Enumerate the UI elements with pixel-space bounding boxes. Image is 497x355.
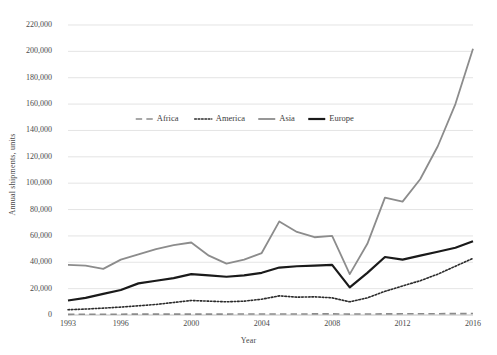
y-tick-label: 0 (0, 310, 52, 319)
x-tick-label: 2004 (242, 319, 282, 328)
gridlines (68, 25, 473, 315)
legend-label-africa: Africa (157, 113, 179, 123)
series-line-america (68, 258, 473, 309)
y-axis-title: Annual shipments, units (8, 115, 17, 235)
x-tick-label: 2000 (171, 319, 211, 328)
x-tick-label: 2016 (453, 319, 493, 328)
series-line-africa (68, 314, 473, 315)
x-tick-label: 2008 (312, 319, 352, 328)
y-tick-label: 220,000 (0, 20, 52, 29)
legend-label-asia: Asia (279, 113, 295, 123)
x-axis-title: Year (0, 336, 497, 345)
legend-label-europe: Europe (329, 113, 354, 123)
y-tick-label: 160,000 (0, 99, 52, 108)
chart-plot-area (0, 0, 497, 355)
legend-label-america: America (216, 113, 245, 123)
y-tick-label: 20,000 (0, 284, 52, 293)
series-lines (68, 49, 473, 315)
y-tick-label: 180,000 (0, 73, 52, 82)
series-line-europe (68, 241, 473, 300)
x-tick-label: 1993 (48, 319, 88, 328)
y-tick-label: 200,000 (0, 46, 52, 55)
line-chart: 020,00040,00060,00080,000100,000120,0001… (0, 0, 497, 355)
y-tick-label: 40,000 (0, 257, 52, 266)
series-line-asia (68, 49, 473, 274)
x-tick-label: 2012 (383, 319, 423, 328)
x-tick-label: 1996 (101, 319, 141, 328)
